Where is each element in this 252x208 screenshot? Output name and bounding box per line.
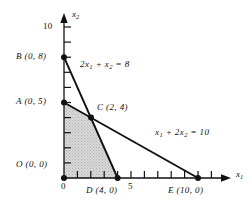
point-marker-B (61, 54, 67, 60)
point-marker-E (195, 175, 201, 181)
point-marker-C (88, 115, 94, 121)
x-tick-label-0: 0 (61, 182, 66, 191)
point-marker-A (61, 100, 67, 106)
equation-label-2: x1 + 2x2 = 10 (155, 128, 209, 137)
point-label-A: A (0, 5) (16, 97, 46, 106)
y-axis-label: x2 (72, 10, 79, 19)
feasible-region-shading (64, 103, 118, 179)
y-tick-label-10: 10 (43, 22, 52, 31)
point-label-E: E (10, 0) (168, 186, 203, 195)
x-axis-label: x1 (236, 170, 243, 179)
equation-label-1: 2x1 + x2 = 8 (80, 60, 130, 69)
point-label-C: C (2, 4) (97, 103, 128, 112)
y-axis-arrowhead (60, 13, 67, 23)
point-label-B: B (0, 8) (16, 52, 46, 61)
x-tick-label-5: 5 (128, 182, 133, 191)
linear-programming-graph: x2 x1 10 0 5 B (0, 8) A (0, 5) O (0, 0) … (0, 0, 252, 208)
point-label-O: O (0, 0) (16, 160, 47, 169)
point-label-D: D (4, 0) (86, 186, 117, 195)
point-marker-D (115, 175, 121, 181)
x-axis-arrowhead (221, 174, 231, 181)
